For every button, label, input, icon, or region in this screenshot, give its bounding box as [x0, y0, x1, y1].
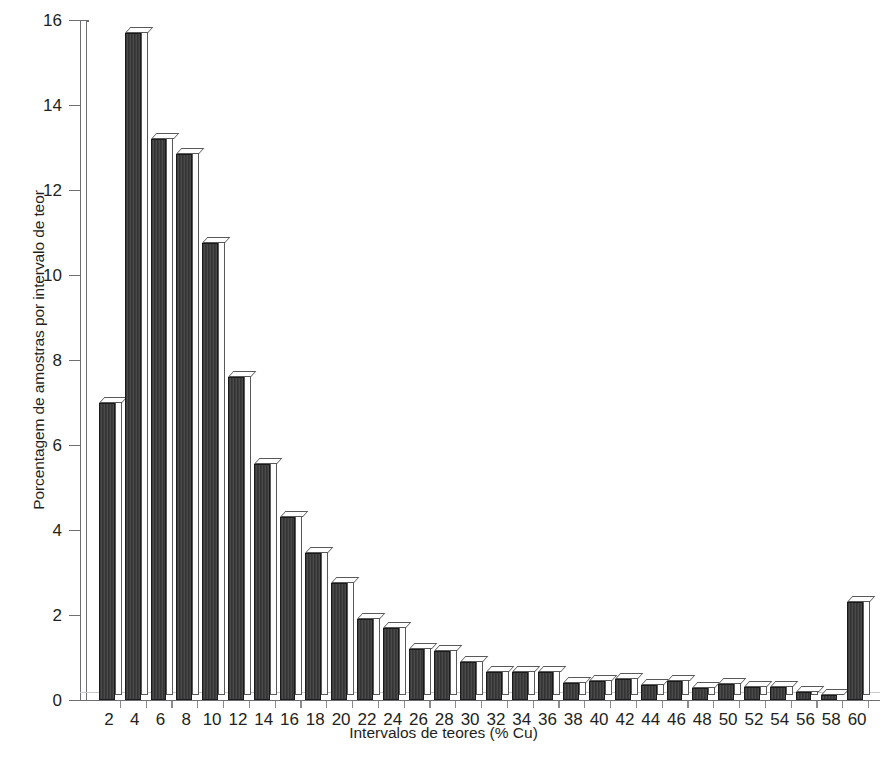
bar-top-face	[228, 371, 256, 377]
x-tick-mark	[171, 701, 172, 708]
bar-side-face	[141, 28, 148, 695]
bar-top-face	[615, 673, 643, 679]
bar-front-face	[718, 684, 734, 700]
x-tick-mark	[687, 701, 688, 708]
y-tick-mark: 0	[69, 700, 80, 701]
y-tick-label: 4	[53, 521, 62, 541]
bar-top-face	[589, 675, 617, 681]
x-tick-mark	[816, 701, 817, 708]
y-tick-label: 16	[43, 11, 62, 31]
bar-6	[151, 132, 167, 700]
bar-top-face	[460, 656, 488, 662]
x-tick-mark	[584, 701, 585, 708]
y-tick-label: 2	[53, 606, 62, 626]
bar-top-face	[538, 666, 566, 672]
bar-26	[409, 642, 425, 700]
y-tick-mark: 14	[69, 105, 80, 106]
bar-side-face	[321, 548, 328, 695]
bar-40	[589, 674, 605, 700]
x-tick-mark	[326, 701, 327, 708]
bar-50	[718, 677, 734, 700]
x-tick-mark	[249, 701, 250, 708]
x-axis-title: Intervalos de teores (% Cu)	[0, 724, 887, 742]
y-tick-label: 14	[43, 96, 62, 116]
x-tick-mark	[636, 701, 637, 708]
bar-front-face	[563, 683, 579, 700]
bar-front-face	[331, 583, 347, 700]
bar-front-face	[692, 688, 708, 700]
bar-top-face	[718, 678, 746, 684]
bar-top-face	[357, 613, 385, 619]
bar-2	[99, 396, 115, 701]
bar-34	[512, 665, 528, 700]
bar-side-face	[270, 459, 277, 695]
bar-front-face	[796, 692, 812, 701]
bar-24	[383, 621, 399, 700]
bar-top-face	[331, 577, 359, 583]
x-tick-mark	[197, 701, 198, 708]
bar-front-face	[744, 687, 760, 700]
y-tick-mark: 4	[69, 530, 80, 531]
bar-side-face	[166, 134, 173, 695]
bar-top-face	[202, 237, 230, 243]
bar-top-face	[770, 681, 798, 687]
bar-side-face	[295, 512, 302, 695]
bar-front-face	[615, 679, 631, 700]
bar-42	[615, 672, 631, 700]
bar-side-face	[424, 644, 431, 695]
bar-top-face	[847, 596, 875, 602]
bar-8	[176, 147, 192, 700]
bar-front-face	[589, 681, 605, 700]
bar-top-face	[434, 645, 462, 651]
x-tick-mark	[842, 701, 843, 708]
x-tick-mark	[455, 701, 456, 708]
bar-top-face	[99, 397, 127, 403]
y-tick-label: 12	[43, 181, 62, 201]
bar-top-face	[151, 133, 179, 139]
bar-top-face	[280, 511, 308, 517]
bar-32	[486, 665, 502, 700]
x-tick-mark	[275, 701, 276, 708]
y-tick-label: 8	[53, 351, 62, 371]
bar-front-face	[821, 695, 837, 700]
y-tick-mark: 10	[69, 275, 80, 276]
x-tick-mark	[791, 701, 792, 708]
bar-20	[331, 576, 347, 700]
bar-30	[460, 655, 476, 700]
bar-side-face	[115, 398, 122, 696]
x-tick-mark	[713, 701, 714, 708]
bar-front-face	[99, 403, 115, 701]
y-tick-label: 0	[53, 691, 62, 711]
y-tick-mark: 6	[69, 445, 80, 446]
bar-front-face	[538, 672, 554, 700]
bar-28	[434, 644, 450, 700]
bar-front-face	[383, 628, 399, 700]
plot-area: 0246810121416 24681012141618202224262830…	[80, 20, 880, 701]
y-tick-label: 10	[43, 266, 62, 286]
x-tick-mark	[868, 701, 869, 708]
bar-chart: Porcentagem de amostras por intervalo de…	[0, 0, 887, 759]
x-tick-mark	[404, 701, 405, 708]
bar-56	[796, 685, 812, 701]
x-tick-mark	[120, 701, 121, 708]
bar-54	[770, 680, 786, 700]
y-tick-mark: 8	[69, 360, 80, 361]
bar-top-face	[692, 682, 720, 688]
bar-top-face	[125, 27, 153, 33]
x-tick-mark	[481, 701, 482, 708]
bar-10	[202, 236, 218, 700]
bar-36	[538, 665, 554, 700]
bar-top-face	[796, 686, 824, 692]
bar-4	[125, 26, 141, 700]
bar-top-face	[176, 148, 204, 154]
bar-side-face	[399, 623, 406, 695]
bar-front-face	[641, 685, 657, 700]
bar-front-face	[125, 33, 141, 700]
bar-side-face	[863, 597, 870, 695]
bar-side-face	[192, 149, 199, 695]
x-tick-mark	[378, 701, 379, 708]
bar-top-face	[641, 679, 669, 685]
bar-front-face	[280, 517, 296, 700]
bar-top-face	[563, 677, 591, 683]
bar-front-face	[254, 464, 270, 700]
